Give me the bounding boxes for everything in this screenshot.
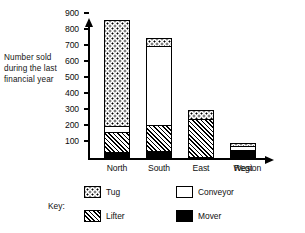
- legend-label-mover: Mover: [198, 212, 221, 221]
- y-axis-tick-label: 600: [65, 57, 79, 66]
- y-axis-tick-label: 500: [65, 73, 79, 82]
- y-axis-tick: 500: [84, 76, 89, 78]
- legend: Key: Tug Lifter Conveyor Mover: [48, 186, 278, 230]
- bar-segment-mover: [147, 152, 171, 157]
- legend-title: Key:: [48, 202, 65, 211]
- legend-swatch-mover: [176, 210, 193, 222]
- legend-item-mover: Mover: [176, 210, 221, 222]
- y-axis-tick-label: 100: [65, 137, 79, 146]
- legend-swatch-tug: [84, 186, 101, 198]
- y-axis-tick-label: 400: [65, 89, 79, 98]
- legend-swatch-conveyor: [176, 186, 193, 198]
- x-axis-title: Region: [234, 164, 261, 173]
- bar-south: [146, 38, 172, 158]
- y-axis-tick: 800: [84, 28, 89, 30]
- bar-segment-tug: [105, 21, 129, 127]
- y-axis-tick-label: 700: [65, 41, 79, 50]
- bar-north: [104, 20, 130, 158]
- bar-segment-lifter: [189, 120, 213, 157]
- legend-label-tug: Tug: [106, 188, 120, 197]
- x-axis-label-north: North: [95, 164, 139, 173]
- legend-label-lifter: Lifter: [106, 212, 125, 221]
- y-axis-tick: 300: [84, 108, 89, 110]
- legend-item-conveyor: Conveyor: [176, 186, 234, 198]
- bar-segment-mover: [105, 153, 129, 157]
- bar-segment-conveyor: [105, 127, 129, 133]
- legend-item-tug: Tug: [84, 186, 120, 198]
- x-axis-label-east: East: [179, 164, 223, 173]
- y-axis-tick: 900: [84, 12, 89, 14]
- legend-item-lifter: Lifter: [84, 210, 125, 222]
- bar-segment-conveyor: [147, 47, 171, 126]
- x-axis-line: [88, 158, 266, 160]
- bar-segment-conveyor: [231, 147, 255, 151]
- bar-segment-lifter: [105, 133, 129, 153]
- bar-segment-tug: [231, 144, 255, 147]
- y-axis-tick: 600: [84, 60, 89, 62]
- bar-segment-lifter: [147, 126, 171, 153]
- y-axis-tick-label: 900: [65, 9, 79, 18]
- x-axis-label-south: South: [137, 164, 181, 173]
- bar-chart: Number sold during the last financial ye…: [0, 0, 305, 233]
- plot-area: 100200300400500600700800900 NorthSouthEa…: [88, 14, 276, 160]
- y-axis-tick: 400: [84, 92, 89, 94]
- legend-label-conveyor: Conveyor: [198, 188, 234, 197]
- y-axis-tick: 200: [84, 124, 89, 126]
- bar-east: [188, 110, 214, 158]
- y-axis-tick-label: 800: [65, 25, 79, 34]
- bar-segment-tug: [147, 39, 171, 47]
- y-axis-tick: 100: [84, 140, 89, 142]
- bar-segment-mover: [231, 151, 255, 157]
- legend-swatch-lifter: [84, 210, 101, 222]
- bar-segment-tug: [189, 111, 213, 120]
- bar-west: [230, 143, 256, 158]
- y-axis-tick: 700: [84, 44, 89, 46]
- y-axis-tick-label: 300: [65, 105, 79, 114]
- y-axis-tick-label: 200: [65, 121, 79, 130]
- y-axis-arrow-icon: [85, 18, 93, 27]
- x-axis-arrow-icon: [265, 156, 274, 164]
- y-axis-line: [88, 20, 90, 160]
